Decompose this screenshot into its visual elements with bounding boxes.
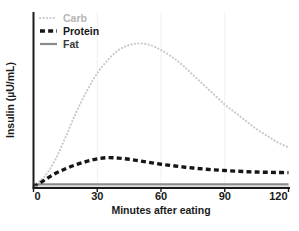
x-tick-label-0: 0 <box>35 190 41 202</box>
x-tick-label-30: 30 <box>91 190 103 202</box>
legend: CarbProteinFat <box>40 12 99 50</box>
x-tick-label-120: 120 <box>269 190 287 202</box>
x-tick-label-60: 60 <box>155 190 167 202</box>
y-axis-title: Insulin (µU/mL) <box>4 62 16 138</box>
x-axis-title: Minutes after eating <box>111 204 210 216</box>
x-tick-labels: 0306090120 <box>35 190 288 202</box>
legend-label-protein: Protein <box>63 25 99 37</box>
insulin-response-chart: 0306090120 Minutes after eating Insulin … <box>0 0 299 231</box>
legend-label-fat: Fat <box>63 38 79 50</box>
gridlines <box>97 12 225 187</box>
legend-label-carb: Carb <box>63 12 87 24</box>
chart-canvas: 0306090120 Minutes after eating Insulin … <box>0 0 299 231</box>
x-tick-label-90: 90 <box>219 190 231 202</box>
